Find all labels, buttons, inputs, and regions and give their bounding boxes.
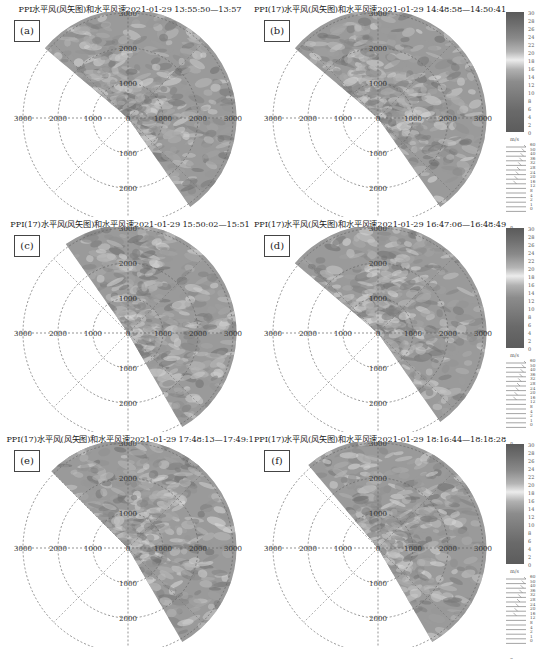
polar-plot: 3000200010001000200030001000200030001000…	[250, 227, 510, 432]
svg-text:2000: 2000	[439, 330, 457, 338]
wind-barb-legend-icon	[504, 145, 530, 220]
svg-text:1000: 1000	[334, 115, 352, 123]
svg-text:2000: 2000	[299, 330, 317, 338]
svg-text:1000: 1000	[404, 115, 422, 123]
svg-text:1000: 1000	[369, 80, 387, 88]
svg-text:3000: 3000	[224, 545, 242, 553]
svg-text:1000: 1000	[154, 330, 172, 338]
colorbar-ticks: 302826242220181614121086420	[528, 9, 534, 137]
colorbar-unit: m/s	[510, 352, 519, 358]
svg-text:2000: 2000	[189, 115, 207, 123]
panel-label: (a)	[14, 20, 40, 42]
svg-text:2000: 2000	[369, 185, 387, 193]
polar-plot: 3000200010001000200030001000200030001000…	[0, 442, 260, 647]
wind-barb-legend-icon	[504, 361, 530, 436]
svg-text:2000: 2000	[299, 115, 317, 123]
svg-text:2000: 2000	[49, 115, 67, 123]
barb-legend-ticks: 6050403632282420161284210	[530, 359, 535, 428]
svg-text:0: 0	[126, 115, 130, 123]
svg-text:3000: 3000	[369, 227, 387, 233]
svg-text:1000: 1000	[334, 545, 352, 553]
svg-text:3000: 3000	[119, 12, 137, 18]
svg-text:1000: 1000	[154, 115, 172, 123]
svg-text:3000: 3000	[14, 115, 32, 123]
svg-text:1000: 1000	[369, 580, 387, 588]
svg-text:2000: 2000	[49, 545, 67, 553]
svg-text:3000: 3000	[14, 330, 32, 338]
svg-text:2000: 2000	[119, 475, 137, 483]
svg-text:3000: 3000	[474, 545, 492, 553]
colorbar-ticks: 302826242220181614121086420	[528, 441, 534, 569]
svg-text:1000: 1000	[119, 510, 137, 518]
panel-e: PPI(17)水平风(风矢图)和水平风速2021-01-29 17:48:13—…	[0, 430, 255, 645]
svg-text:1000: 1000	[84, 115, 102, 123]
colorbar-legend: 302826242220181614121086420m/s6050403632…	[504, 444, 544, 659]
panel-b: PPI(17)水平风(风矢图)和水平风速2021-01-29 14:48:58—…	[250, 0, 505, 215]
svg-text:3000: 3000	[369, 12, 387, 18]
svg-text:0: 0	[126, 330, 130, 338]
svg-text:3000: 3000	[224, 330, 242, 338]
colorbar-unit: m/s	[510, 136, 519, 142]
wind-barb-legend-icon	[504, 577, 530, 652]
svg-text:2000: 2000	[49, 330, 67, 338]
svg-text:3000: 3000	[369, 442, 387, 448]
colorbar-gradient	[506, 444, 524, 564]
svg-text:2000: 2000	[119, 400, 137, 408]
barb-legend-ticks: 6050403632282420161284210	[530, 143, 535, 212]
svg-text:3000: 3000	[264, 330, 282, 338]
svg-text:1000: 1000	[404, 330, 422, 338]
svg-text:3000: 3000	[264, 115, 282, 123]
colorbar-legend: 302826242220181614121086420m/s6050403632…	[504, 12, 544, 232]
polar-plot: 3000200010001000200030001000200030001000…	[0, 12, 260, 217]
svg-text:3000: 3000	[474, 330, 492, 338]
panel-d: PPI(17)水平风(风矢图)和水平风速2021-01-29 16:47:06—…	[250, 215, 505, 430]
svg-text:2000: 2000	[189, 330, 207, 338]
svg-text:3000: 3000	[264, 545, 282, 553]
svg-text:1000: 1000	[334, 330, 352, 338]
svg-text:1000: 1000	[84, 545, 102, 553]
panel-label: (e)	[14, 450, 40, 472]
svg-text:1000: 1000	[369, 365, 387, 373]
svg-text:2000: 2000	[369, 400, 387, 408]
svg-text:0: 0	[376, 545, 380, 553]
svg-text:1000: 1000	[154, 545, 172, 553]
svg-text:2000: 2000	[119, 45, 137, 53]
svg-text:0: 0	[376, 115, 380, 123]
panel-a: PPI水平风(风矢图)和水平风速2021-01-29 13:55:50—13:5…	[0, 0, 255, 215]
svg-text:1000: 1000	[84, 330, 102, 338]
svg-text:3000: 3000	[119, 227, 137, 233]
svg-text:1000: 1000	[369, 150, 387, 158]
svg-text:1000: 1000	[119, 295, 137, 303]
colorbar-gradient	[506, 228, 524, 348]
svg-text:1000: 1000	[119, 150, 137, 158]
svg-text:2000: 2000	[369, 45, 387, 53]
svg-text:1000: 1000	[404, 545, 422, 553]
svg-text:3000: 3000	[224, 115, 242, 123]
polar-plot: 3000200010001000200030001000200030001000…	[250, 442, 510, 647]
barb-legend-ticks: 6050403632282420161284210	[530, 575, 535, 644]
svg-text:1000: 1000	[119, 365, 137, 373]
polar-plot: 3000200010001000200030001000200030001000…	[250, 12, 510, 217]
svg-text:2000: 2000	[369, 260, 387, 268]
svg-text:2000: 2000	[119, 260, 137, 268]
svg-text:2000: 2000	[439, 115, 457, 123]
svg-text:2000: 2000	[119, 615, 137, 623]
panel-f: PPI(17)水平风(风矢图)和水平风速2021-01-29 18:16:44—…	[250, 430, 505, 645]
svg-text:0: 0	[376, 330, 380, 338]
svg-text:0: 0	[126, 545, 130, 553]
svg-text:3000: 3000	[474, 115, 492, 123]
colorbar-legend: 302826242220181614121086420m/s6050403632…	[504, 228, 544, 448]
svg-text:3000: 3000	[119, 442, 137, 448]
svg-text:2000: 2000	[119, 185, 137, 193]
colorbar-gradient	[506, 12, 524, 132]
svg-text:1000: 1000	[369, 510, 387, 518]
svg-text:2000: 2000	[369, 475, 387, 483]
colorbar-ticks: 302826242220181614121086420	[528, 225, 534, 353]
svg-text:2000: 2000	[439, 545, 457, 553]
colorbar-unit: m/s	[510, 568, 519, 574]
svg-text:2000: 2000	[189, 545, 207, 553]
svg-text:3000: 3000	[14, 545, 32, 553]
panel-label: (d)	[264, 235, 290, 257]
polar-plot: 3000200010001000200030001000200030001000…	[0, 227, 260, 432]
svg-text:2000: 2000	[369, 615, 387, 623]
